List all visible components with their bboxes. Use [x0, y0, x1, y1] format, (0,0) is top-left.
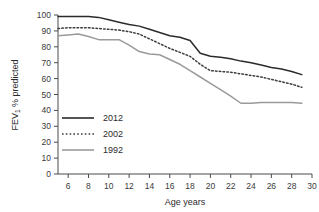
y-axis-ticks: 0102030405060708090100	[37, 10, 58, 179]
y-axis-title-rest: % predicted	[10, 59, 20, 109]
x-tick-label-16: 16	[165, 181, 175, 191]
y-tick-label-10: 10	[42, 153, 52, 163]
y-tick-label-40: 40	[42, 105, 52, 115]
y-axis-title: FEV1 % predicted	[10, 59, 21, 130]
y-axis: 0102030405060708090100	[37, 10, 58, 179]
x-tick-label-6: 6	[66, 181, 71, 191]
y-tick-label-90: 90	[42, 26, 52, 36]
y-axis-title-main: FEV	[10, 113, 20, 131]
y-tick-label-100: 100	[37, 10, 51, 20]
x-tick-label-30: 30	[307, 181, 317, 191]
y-tick-label-50: 50	[42, 90, 52, 100]
x-axis: 681012141618202224262830	[58, 174, 317, 191]
chart-legend: 201220021992	[62, 113, 123, 155]
x-tick-label-26: 26	[267, 181, 277, 191]
y-tick-label-20: 20	[42, 137, 52, 147]
x-tick-label-20: 20	[206, 181, 216, 191]
x-tick-label-22: 22	[226, 181, 236, 191]
x-tick-label-8: 8	[86, 181, 91, 191]
legend-label-2002: 2002	[103, 129, 123, 139]
x-tick-label-10: 10	[104, 181, 114, 191]
y-tick-label-30: 30	[42, 121, 52, 131]
x-tick-label-18: 18	[185, 181, 195, 191]
fev1-decline-line-chart: 0102030405060708090100 68101214161820222…	[0, 0, 319, 212]
y-tick-label-60: 60	[42, 74, 52, 84]
y-tick-label-70: 70	[42, 58, 52, 68]
data-series-group	[58, 17, 302, 104]
x-tick-label-28: 28	[287, 181, 297, 191]
x-tick-label-14: 14	[145, 181, 155, 191]
chart-figure: 0102030405060708090100 68101214161820222…	[0, 0, 319, 212]
legend-label-1992: 1992	[103, 145, 123, 155]
series-line-2012	[58, 17, 302, 75]
x-axis-title: Age years	[165, 197, 206, 207]
y-tick-label-0: 0	[46, 169, 51, 179]
x-tick-label-12: 12	[124, 181, 134, 191]
x-tick-label-24: 24	[246, 181, 256, 191]
series-line-1992	[58, 34, 302, 103]
x-axis-ticks: 681012141618202224262830	[66, 174, 317, 191]
legend-label-2012: 2012	[103, 113, 123, 123]
y-tick-label-80: 80	[42, 42, 52, 52]
